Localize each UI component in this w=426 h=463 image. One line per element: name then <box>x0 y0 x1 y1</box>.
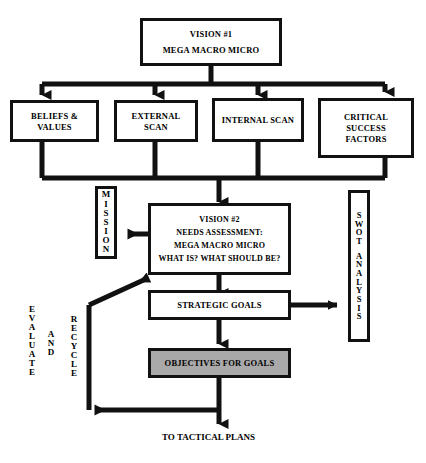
node-beliefs-values[interactable]: BELIEFS & VALUES <box>10 100 99 142</box>
label-recycle: R E C Y C L E <box>67 315 81 378</box>
node-vision-2-line-4: WHAT IS? WHAT SHOULD BE? <box>159 254 281 263</box>
node-internal-scan[interactable]: INTERNAL SCAN <box>212 98 304 142</box>
node-vision-1-line-1: VISION #1 <box>190 29 233 39</box>
node-critical-success-factors-line-2: SUCCESS <box>346 123 386 133</box>
label-analysis-char-8: S <box>357 312 362 321</box>
flowchart-diagram: VISION #1 MEGA MACRO MICRO BELIEFS & VAL… <box>0 0 426 463</box>
node-strategic-goals-line-1: STRATEGIC GOALS <box>177 300 261 310</box>
label-swot-char-4: T <box>356 237 362 246</box>
connector-recycle-into-vision2 <box>89 278 148 305</box>
label-evaluate: E V A L U A T E <box>25 305 39 377</box>
label-mission[interactable]: M I S S I O N <box>95 186 117 259</box>
label-recycle-char-7: E <box>71 369 77 378</box>
label-and: A N D <box>44 330 58 357</box>
node-external-scan-line-1: EXTERNAL <box>132 111 181 121</box>
node-external-scan-line-2: SCAN <box>144 122 168 132</box>
node-beliefs-values-line-1: BELIEFS & <box>31 111 78 121</box>
label-and-char-3: D <box>48 348 55 357</box>
caption-to-tactical-plans: TO TACTICAL PLANS <box>162 432 255 442</box>
node-critical-success-factors-line-1: CRITICAL <box>344 112 388 122</box>
node-vision-1-line-2: MEGA MACRO MICRO <box>163 45 260 55</box>
node-internal-scan-line-1: INTERNAL SCAN <box>222 115 294 125</box>
node-critical-success-factors[interactable]: CRITICAL SUCCESS FACTORS <box>318 98 414 158</box>
node-beliefs-values-line-2: VALUES <box>37 122 72 132</box>
node-external-scan[interactable]: EXTERNAL SCAN <box>114 100 198 142</box>
node-vision-1[interactable]: VISION #1 MEGA MACRO MICRO <box>140 18 282 66</box>
node-objectives-for-goals-line-1: OBJECTIVES FOR GOALS <box>165 358 275 368</box>
label-evaluate-char-8: E <box>29 368 35 377</box>
node-vision-2-line-3: MEGA MACRO MICRO <box>174 241 265 250</box>
label-swot-analysis[interactable]: S W O T A N A L Y S I S <box>348 190 370 342</box>
node-vision-2-line-1: VISION #2 <box>199 215 239 224</box>
label-mission-char-7: N <box>103 245 110 254</box>
node-strategic-goals[interactable]: STRATEGIC GOALS <box>148 290 291 320</box>
node-critical-success-factors-line-3: FACTORS <box>345 134 386 144</box>
node-vision-2[interactable]: VISION #2 NEEDS ASSESSMENT: MEGA MACRO M… <box>148 203 291 275</box>
node-objectives-for-goals[interactable]: OBJECTIVES FOR GOALS <box>148 348 291 378</box>
node-vision-2-line-2: NEEDS ASSESSMENT: <box>176 228 263 237</box>
